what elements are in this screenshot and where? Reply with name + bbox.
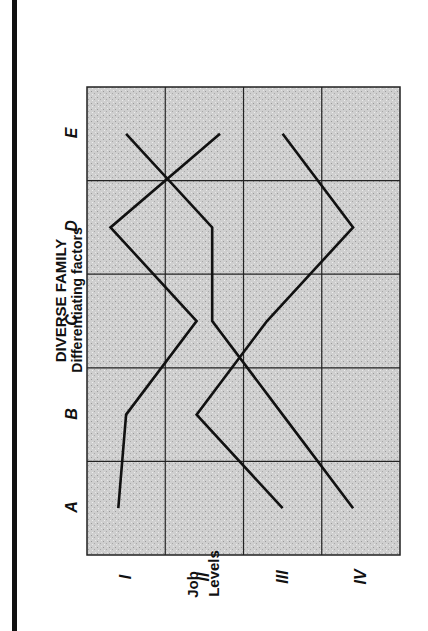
factor-label-c: C — [63, 310, 81, 330]
level-label-iii: III — [274, 561, 292, 593]
factor-label-d: D — [63, 216, 81, 236]
level-label-iv: IV — [352, 561, 370, 593]
factor-label-e: E — [63, 123, 81, 143]
chart-subtitle: Differentiating factors — [69, 215, 85, 385]
level-label-i: I — [117, 561, 135, 593]
axis-title-job: Job — [184, 565, 201, 605]
chart-title: DIVERSE FAMILY — [52, 221, 69, 381]
axis-title-levels: Levels — [205, 544, 222, 604]
factor-label-b: B — [63, 404, 81, 424]
factor-label-a: A — [63, 497, 81, 517]
